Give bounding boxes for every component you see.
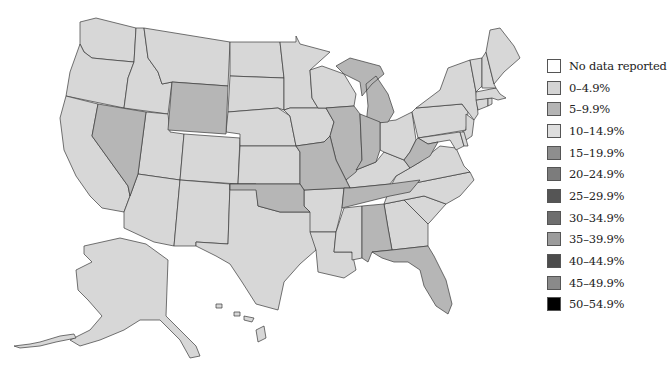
legend-swatch xyxy=(547,146,561,160)
state-ak-aleutians xyxy=(14,334,76,348)
legend-item: 15–19.9% xyxy=(547,142,664,164)
legend-label: 20–24.9% xyxy=(569,167,624,181)
legend-item: 5–9.9% xyxy=(547,98,664,120)
state-hi[interactable] xyxy=(256,326,266,342)
legend-item: 50–54.9% xyxy=(547,294,664,316)
legend-swatch xyxy=(547,297,561,311)
state-nm[interactable] xyxy=(174,180,230,246)
legend-item: 30–34.9% xyxy=(547,207,664,229)
legend-swatch xyxy=(547,211,561,225)
state-fl[interactable] xyxy=(372,246,452,314)
state-nd[interactable] xyxy=(230,42,284,78)
legend-item: 10–14.9% xyxy=(547,120,664,142)
state-ak[interactable] xyxy=(70,238,200,358)
legend-item: 0–4.9% xyxy=(547,77,664,99)
legend-item: 45–49.9% xyxy=(547,272,664,294)
legend-swatch xyxy=(547,124,561,138)
legend-label: 0–4.9% xyxy=(569,81,610,95)
legend-label: 50–54.9% xyxy=(569,297,624,311)
legend-swatch xyxy=(547,254,561,268)
legend-swatch xyxy=(547,167,561,181)
legend-swatch xyxy=(547,102,561,116)
legend-swatch xyxy=(547,276,561,290)
legend-swatch xyxy=(547,81,561,95)
state-wy[interactable] xyxy=(168,82,228,134)
state-hi-islands xyxy=(216,304,254,322)
legend-label: No data reported xyxy=(569,59,667,73)
state-ma[interactable] xyxy=(476,88,506,100)
legend-item: 25–29.9% xyxy=(547,185,664,207)
legend-swatch xyxy=(547,232,561,246)
legend-label: 15–19.9% xyxy=(569,146,624,160)
legend-swatch xyxy=(547,189,561,203)
map-legend: No data reported 0–4.9% 5–9.9% 10–14.9% … xyxy=(547,55,664,315)
legend-label: 40–44.9% xyxy=(569,254,624,268)
state-ri[interactable] xyxy=(488,98,492,106)
legend-label: 10–14.9% xyxy=(569,124,624,138)
legend-label: 30–34.9% xyxy=(569,211,624,225)
us-choropleth-map xyxy=(0,0,540,375)
state-co[interactable] xyxy=(180,134,240,184)
legend-label: 5–9.9% xyxy=(569,102,610,116)
legend-label: 35–39.9% xyxy=(569,232,624,246)
state-sd[interactable] xyxy=(228,76,284,112)
legend-item: 20–24.9% xyxy=(547,163,664,185)
state-ks[interactable] xyxy=(238,146,300,184)
legend-label: 25–29.9% xyxy=(569,189,624,203)
legend-swatch xyxy=(547,59,561,73)
legend-item: 35–39.9% xyxy=(547,229,664,251)
legend-label: 45–49.9% xyxy=(569,276,624,290)
legend-item: 40–44.9% xyxy=(547,250,664,272)
legend-item: No data reported xyxy=(547,55,664,77)
